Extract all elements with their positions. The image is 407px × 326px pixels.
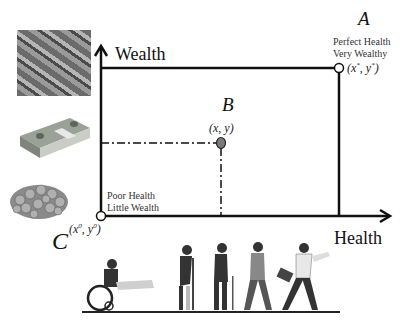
point-a-coord: (x*, y*) — [347, 61, 379, 76]
crutches-figure — [179, 245, 194, 310]
cane-figure — [214, 243, 234, 310]
point-b-coord: (x, y) — [209, 121, 234, 136]
cash-pile-image — [17, 30, 91, 96]
point-c-label: C — [52, 228, 68, 255]
point-a-desc-line1: Perfect Health — [333, 36, 390, 48]
point-c-coord: (x0, y0) — [69, 222, 101, 237]
y-axis-label: Wealth — [115, 44, 166, 65]
health-progression-image — [82, 242, 340, 312]
point-c-desc-line2: Little Wealth — [107, 202, 159, 214]
point-a-label: A — [358, 8, 370, 30]
point-a-desc-line2: Very Wealthy — [333, 48, 390, 60]
x-axis-label: Health — [334, 228, 382, 249]
walking-figure — [244, 242, 272, 310]
coin-pile-image — [8, 180, 70, 222]
point-b-label: B — [222, 94, 234, 116]
point-a-desc: Perfect Health Very Wealthy — [333, 36, 390, 60]
point-a-marker — [335, 64, 344, 73]
point-b-marker — [217, 138, 226, 149]
point-c-desc-line1: Poor Health — [107, 190, 159, 202]
wheelchair-figure — [88, 259, 154, 310]
point-c-marker — [97, 212, 106, 221]
banknote-stack-image — [18, 114, 92, 160]
point-c-desc: Poor Health Little Wealth — [107, 190, 159, 214]
running-businessman-figure — [277, 243, 330, 310]
